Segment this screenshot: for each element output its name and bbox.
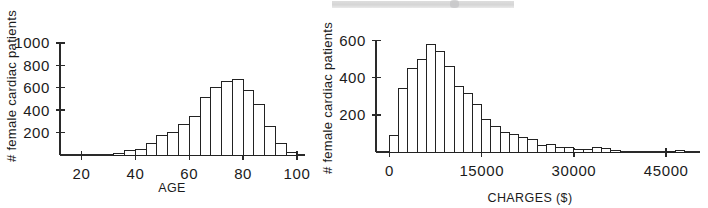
histogram-bar (408, 69, 417, 152)
histogram-bar (537, 145, 546, 152)
charges-histogram-y-tick-label: 600 (339, 32, 366, 49)
histogram-bar (211, 88, 222, 155)
age-histogram-y-tick-label: 200 (23, 124, 50, 141)
age-histogram-y-tick-label: 1000 (14, 34, 50, 51)
histogram-bar (200, 98, 211, 155)
histogram-bar (265, 126, 276, 155)
charges-x-axis-title: CHARGES ($) (488, 191, 573, 205)
histogram-bar (675, 151, 684, 152)
histogram-bar (222, 81, 233, 155)
histogram-bar (666, 151, 675, 152)
age-y-axis-label-group: # female cardiac patients (4, 10, 19, 162)
histogram-bar (146, 143, 157, 155)
charges-y-axis-label-group: # female cardiac patients (320, 22, 335, 174)
histogram-bar (286, 152, 297, 155)
charges-histogram-y-tick-label: 200 (339, 106, 366, 123)
histogram-bar (254, 105, 265, 155)
histogram-bar (491, 127, 500, 152)
histogram-bar (509, 135, 518, 152)
histogram-bar (565, 148, 574, 152)
charges-y-axis-label: # female cardiac patients (320, 22, 335, 174)
histogram-bar (114, 154, 125, 155)
histogram-bar (178, 125, 189, 155)
age-histogram-chart: # female cardiac patients 20040060080010… (0, 0, 330, 208)
histogram-bar (232, 80, 243, 155)
charges-histogram-chart: # female cardiac patients 20040060001500… (318, 0, 708, 208)
age-histogram-x-tick-label: 20 (73, 165, 91, 182)
histogram-bar (135, 150, 146, 155)
age-histogram-x-tick-label: 60 (180, 165, 198, 182)
histogram-bar (602, 149, 611, 152)
age-histogram-y-tick-label: 400 (23, 102, 50, 119)
figure-panel: # female cardiac patients 20040060080010… (0, 0, 708, 208)
histogram-bar (592, 147, 601, 152)
histogram-bar (168, 133, 179, 155)
charges-plot-area: 2004006000150003000045000 (339, 32, 700, 179)
histogram-bar (454, 86, 463, 152)
histogram-bar (125, 151, 136, 155)
histogram-bar (528, 139, 537, 152)
histogram-bar (611, 151, 620, 152)
histogram-bar (157, 135, 168, 155)
histogram-bar (473, 105, 482, 152)
charges-histogram-x-tick-label: 0 (385, 162, 394, 179)
histogram-bar (574, 149, 583, 152)
histogram-bar (519, 137, 528, 152)
histogram-bar (583, 149, 592, 152)
charges-histogram-x-tick-label: 45000 (644, 162, 689, 179)
charges-histogram-y-tick-label: 400 (339, 69, 366, 86)
histogram-bar (243, 90, 254, 155)
histogram-bar (463, 94, 472, 152)
age-histogram-x-tick-label: 80 (234, 165, 252, 182)
histogram-bar (445, 66, 454, 152)
histogram-bar (399, 89, 408, 152)
age-plot-area: 200400600800100020406080100 (14, 34, 310, 182)
age-histogram-x-tick-label: 100 (284, 165, 311, 182)
age-histogram-y-tick-label: 600 (23, 79, 50, 96)
histogram-bar (556, 147, 565, 152)
histogram-bar (482, 119, 491, 152)
age-y-axis-label: # female cardiac patients (4, 10, 19, 162)
histogram-bar (417, 60, 426, 152)
age-x-axis-title: AGE (158, 181, 186, 195)
histogram-bar (275, 143, 286, 155)
charges-histogram-x-tick-label: 30000 (552, 162, 597, 179)
age-histogram-y-tick-label: 800 (23, 57, 50, 74)
histogram-bar (189, 116, 200, 155)
age-histogram-x-tick-label: 40 (126, 165, 144, 182)
histogram-bar (390, 135, 399, 152)
charges-histogram-x-tick-label: 15000 (459, 162, 504, 179)
histogram-bar (500, 132, 509, 152)
histogram-bar (436, 51, 445, 152)
histogram-bar (426, 44, 435, 152)
histogram-bar (546, 144, 555, 152)
